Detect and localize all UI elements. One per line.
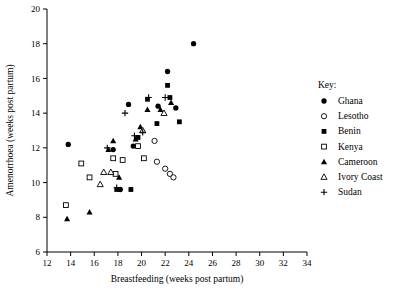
- legend-label: Cameroon: [338, 157, 378, 167]
- point-filled-circle: [191, 41, 196, 46]
- legend-item-kenya[interactable]: Kenya: [322, 142, 364, 152]
- x-tick-label: 26: [208, 258, 218, 268]
- point-filled-triangle: [144, 107, 150, 113]
- y-tick-label: 20: [31, 4, 41, 14]
- point-open-triangle: [101, 169, 107, 175]
- y-tick-label: 14: [31, 108, 41, 118]
- point-open-square: [87, 175, 92, 180]
- x-tick-label: 32: [279, 258, 288, 268]
- x-tick-label: 34: [303, 258, 313, 268]
- x-tick-label: 22: [161, 258, 170, 268]
- y-tick-label: 6: [36, 247, 41, 257]
- point-open-square: [136, 144, 141, 149]
- legend-label: Kenya: [338, 142, 364, 152]
- point-filled-triangle: [86, 209, 92, 215]
- legend-label: Ghana: [338, 96, 364, 106]
- x-tick-label: 14: [66, 258, 76, 268]
- legend-item-ghana[interactable]: Ghana: [321, 96, 363, 106]
- axis-lines: [47, 9, 307, 252]
- point-open-square: [142, 156, 147, 161]
- point-filled-square: [129, 187, 134, 192]
- point-plus: [162, 94, 168, 100]
- point-filled-circle: [126, 102, 131, 107]
- y-tick-label: 8: [36, 212, 41, 222]
- legend-label: Ivory Coast: [338, 172, 383, 182]
- legend-item-sudan[interactable]: Sudan: [321, 187, 362, 197]
- legend-item-ivory-coast[interactable]: Ivory Coast: [321, 172, 383, 182]
- y-tick-label: 18: [31, 39, 41, 49]
- x-tick-label: 16: [90, 258, 100, 268]
- legend-label: Lesotho: [338, 111, 369, 121]
- point-plus: [122, 110, 128, 116]
- x-axis-title: Breastfeeding (weeks post partum): [111, 274, 244, 285]
- legend-marker-filled-circle: [321, 98, 326, 103]
- legend-item-lesotho[interactable]: Lesotho: [321, 111, 369, 121]
- legend-marker-open-square: [322, 144, 327, 149]
- x-tick-label: 24: [184, 258, 194, 268]
- chart-canvas: 12141618202224262830323468101214161820Br…: [0, 0, 398, 300]
- point-open-circle: [171, 175, 176, 180]
- point-filled-circle: [66, 142, 71, 147]
- y-tick-label: 10: [31, 178, 41, 188]
- point-filled-square: [155, 121, 160, 126]
- legend-title: Key:: [318, 80, 336, 90]
- x-tick-label: 18: [113, 258, 123, 268]
- point-open-circle: [154, 159, 159, 164]
- legend-marker-filled-triangle: [321, 159, 327, 165]
- legend-marker-open-circle: [321, 114, 326, 119]
- legend-label: Benin: [338, 126, 361, 136]
- plot-layer: 12141618202224262830323468101214161820Br…: [5, 4, 383, 285]
- series-ghana: [66, 41, 197, 192]
- point-open-square: [64, 203, 69, 208]
- point-open-square: [79, 161, 84, 166]
- point-open-circle: [152, 138, 157, 143]
- point-filled-circle: [111, 147, 116, 152]
- point-filled-triangle: [110, 138, 116, 144]
- legend-item-benin[interactable]: Benin: [322, 126, 361, 136]
- y-tick-label: 16: [31, 74, 41, 84]
- point-open-circle: [163, 166, 168, 171]
- x-tick-label: 28: [232, 258, 242, 268]
- legend-marker-plus: [321, 189, 327, 195]
- point-open-square: [111, 156, 116, 161]
- point-filled-square: [165, 83, 170, 88]
- x-tick-label: 20: [137, 258, 147, 268]
- legend-marker-open-triangle: [321, 174, 327, 180]
- point-plus: [140, 129, 146, 135]
- point-filled-triangle: [168, 100, 174, 106]
- point-filled-circle: [131, 143, 136, 148]
- legend-item-cameroon[interactable]: Cameroon: [321, 157, 378, 167]
- x-tick-label: 12: [43, 258, 52, 268]
- point-filled-square: [177, 119, 182, 124]
- legend-label: Sudan: [338, 187, 362, 197]
- series-lesotho: [152, 138, 176, 180]
- point-filled-circle: [165, 69, 170, 74]
- point-filled-circle: [173, 105, 178, 110]
- legend-marker-filled-square: [322, 129, 327, 134]
- y-tick-label: 12: [31, 143, 40, 153]
- point-open-triangle: [97, 181, 103, 187]
- scatter-chart-figure: 12141618202224262830323468101214161820Br…: [0, 0, 398, 300]
- point-open-square: [120, 158, 125, 163]
- point-filled-triangle: [64, 216, 70, 222]
- x-tick-label: 30: [255, 258, 265, 268]
- y-axis-title: Amenorrhoea (weeks post partum): [5, 64, 16, 196]
- series-kenya: [64, 144, 147, 208]
